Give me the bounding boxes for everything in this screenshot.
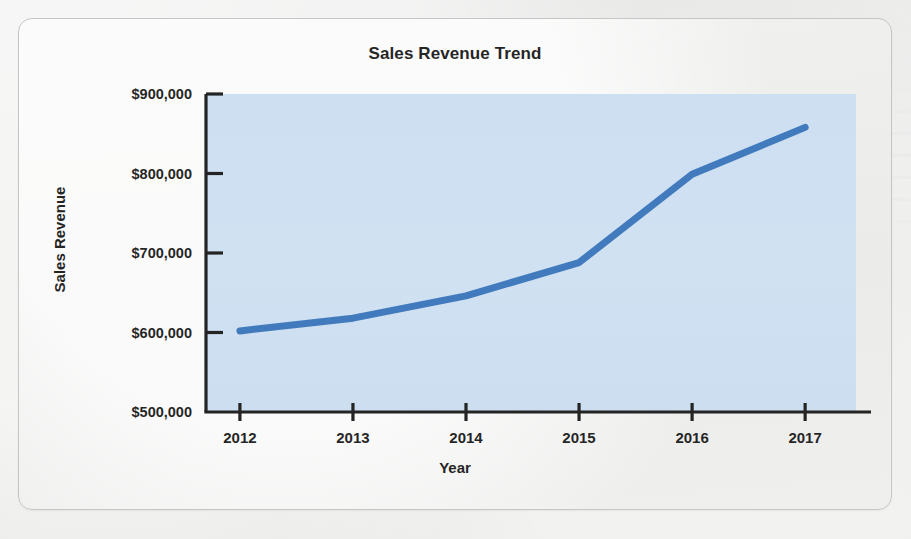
x-tick-label: 2012	[200, 429, 280, 446]
x-tick-label: 2013	[313, 429, 393, 446]
x-tick-label: 2015	[539, 429, 619, 446]
x-tick-label: 2016	[652, 429, 732, 446]
x-tick-label: 2014	[426, 429, 506, 446]
y-tick-label: $500,000	[82, 404, 192, 420]
figure-card: Sales Revenue Trend Sales Revenue Year $…	[18, 18, 892, 510]
y-tick-label: $700,000	[82, 245, 192, 261]
y-tick-label: $600,000	[82, 325, 192, 341]
scanned-page: Sales Revenue Trend Sales Revenue Year $…	[0, 0, 911, 539]
series-line-sales-revenue	[240, 127, 805, 331]
y-tick-label: $900,000	[82, 86, 192, 102]
y-tick-label: $800,000	[82, 166, 192, 182]
tick-marks	[206, 94, 805, 421]
x-tick-label: 2017	[765, 429, 845, 446]
